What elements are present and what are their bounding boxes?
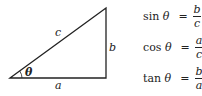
fraction: a c xyxy=(195,35,202,60)
denominator: c xyxy=(193,16,201,29)
equals-sign: = xyxy=(180,72,189,85)
denominator: a xyxy=(195,78,202,91)
denominator: c xyxy=(195,47,202,60)
sine-formula: sin θ = b c xyxy=(143,4,202,28)
angle-variable: θ xyxy=(163,10,170,23)
hypotenuse-label: c xyxy=(55,27,61,38)
equals-sign: = xyxy=(181,41,190,54)
fraction: b a xyxy=(194,66,202,91)
cosine-formula: cos θ = a c xyxy=(143,35,202,59)
function-name: cos xyxy=(143,41,161,54)
function-name: tan xyxy=(143,72,161,85)
equals-sign: = xyxy=(178,10,187,23)
opposite-side-label: b xyxy=(109,42,116,53)
fraction: b c xyxy=(193,4,202,29)
adjacent-side-label: a xyxy=(55,80,62,91)
numerator: a xyxy=(195,35,202,47)
numerator: b xyxy=(194,66,202,78)
function-name: sin xyxy=(143,10,159,23)
numerator: b xyxy=(193,4,202,16)
angle-theta-label: θ xyxy=(25,67,32,78)
tangent-formula: tan θ = b a xyxy=(143,66,202,90)
angle-arc xyxy=(20,71,22,78)
angle-variable: θ xyxy=(165,41,172,54)
angle-variable: θ xyxy=(165,72,172,85)
